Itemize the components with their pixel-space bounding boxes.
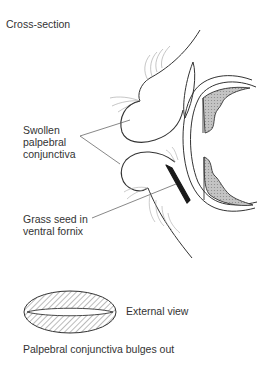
leader-lower [80, 136, 120, 164]
leader-lines [80, 120, 176, 218]
upper-iris [203, 87, 250, 133]
leader-seed [92, 184, 176, 218]
cross-section-illustration [0, 0, 280, 369]
external-view-ellipse [24, 291, 116, 333]
upper-eyelid [121, 101, 183, 142]
lower-eyelid [121, 152, 175, 191]
palpebral-fissure [27, 308, 113, 316]
third-eyelid [184, 62, 195, 118]
upper-lid-hairs [110, 46, 170, 112]
